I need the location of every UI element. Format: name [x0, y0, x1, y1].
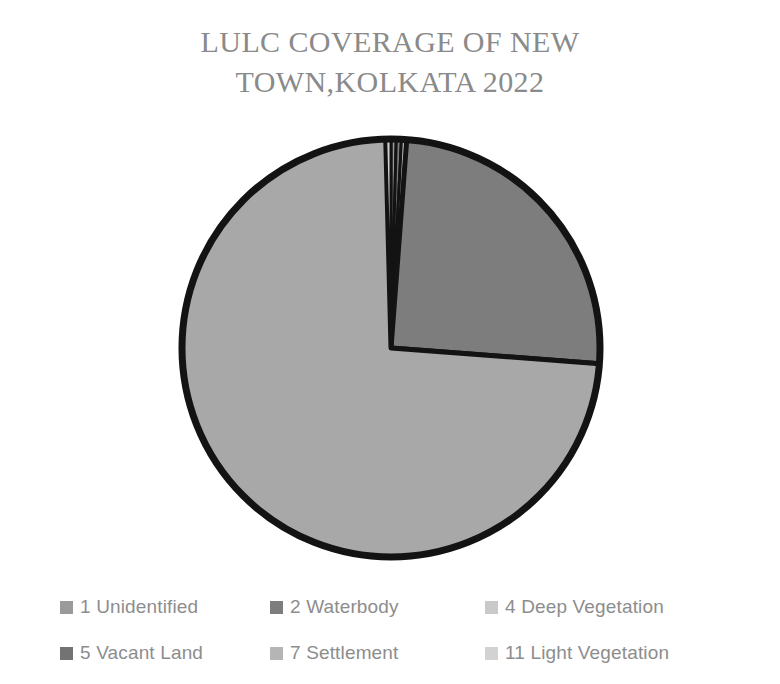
legend-item-label: 1 Unidentified: [80, 596, 198, 618]
legend-swatch-icon: [60, 647, 73, 660]
chart-title: LULC COVERAGE OF NEW TOWN,KOLKATA 2022: [90, 22, 690, 102]
legend-item-4-deep-vegetation[interactable]: 4 Deep Vegetation: [485, 596, 715, 618]
legend-item-label: 2 Waterbody: [290, 596, 399, 618]
pie-chart-figure: LULC COVERAGE OF NEW TOWN,KOLKATA 2022 1…: [0, 0, 780, 684]
pie-slice[interactable]: [391, 140, 600, 364]
chart-legend: 1 Unidentified 2 Waterbody 4 Deep Vegeta…: [60, 584, 740, 676]
pie-plot-area: [0, 110, 780, 572]
legend-item-label: 7 Settlement: [290, 642, 398, 664]
legend-item-11-light-vegetation[interactable]: 11 Light Vegetation: [485, 642, 715, 664]
legend-swatch-icon: [485, 647, 498, 660]
legend-swatch-icon: [270, 601, 283, 614]
pie-svg: [0, 110, 780, 572]
legend-item-label: 11 Light Vegetation: [505, 642, 669, 664]
legend-item-5-vacant-land[interactable]: 5 Vacant Land: [60, 642, 270, 664]
legend-item-2-waterbody[interactable]: 2 Waterbody: [270, 596, 485, 618]
legend-swatch-icon: [270, 647, 283, 660]
legend-swatch-icon: [485, 601, 498, 614]
legend-swatch-icon: [60, 601, 73, 614]
legend-item-7-settlement[interactable]: 7 Settlement: [270, 642, 485, 664]
legend-item-1-unidentified[interactable]: 1 Unidentified: [60, 596, 270, 618]
legend-item-label: 5 Vacant Land: [80, 642, 203, 664]
legend-item-label: 4 Deep Vegetation: [505, 596, 664, 618]
